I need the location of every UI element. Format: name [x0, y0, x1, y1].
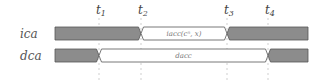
- signal-segment-inactive: [268, 49, 308, 62]
- signal-label: dca: [20, 49, 42, 63]
- signal-label: ica: [20, 27, 38, 41]
- signal-row-dca: dcadacc: [20, 49, 308, 63]
- signal-rows: icaiacc(cⁿ, x)dcadacc: [20, 27, 308, 63]
- time-marker-label-2: t2: [138, 3, 148, 18]
- timing-diagram: t1t2t3t4 icaiacc(cⁿ, x)dcadacc: [0, 0, 325, 81]
- segment-label: iacc(cⁿ, x): [167, 30, 202, 38]
- time-marker-label-4: t4: [265, 3, 275, 18]
- time-marker-label-3: t3: [224, 3, 234, 18]
- signal-row-ica: icaiacc(cⁿ, x): [20, 27, 308, 41]
- signal-segment-inactive: [55, 27, 141, 40]
- time-marker-label-1: t1: [96, 3, 106, 18]
- time-markers: t1t2t3t4: [96, 3, 275, 18]
- signal-segment-inactive: [227, 27, 308, 40]
- segment-label: dacc: [175, 52, 192, 60]
- signal-segment-inactive: [55, 49, 99, 62]
